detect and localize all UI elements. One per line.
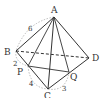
length-bp: 2: [13, 60, 17, 68]
label-b: B: [4, 47, 11, 57]
edge-bd: [16, 51, 89, 58]
label-d: D: [92, 53, 99, 63]
label-p: P: [17, 67, 23, 77]
label-a: A: [50, 5, 58, 15]
edge-pq: [28, 66, 69, 72]
label-q: Q: [70, 72, 77, 82]
length-ab: 6: [28, 25, 33, 33]
length-pc: 4: [29, 80, 34, 88]
edge-ac: [48, 17, 54, 89]
tetrahedron-diagram: A B D P Q C 6 2 4 3: [0, 0, 106, 98]
label-c: C: [44, 91, 51, 98]
length-cq: 3: [62, 85, 66, 93]
edge-cd: [48, 58, 89, 89]
edge-ab: [16, 17, 54, 51]
